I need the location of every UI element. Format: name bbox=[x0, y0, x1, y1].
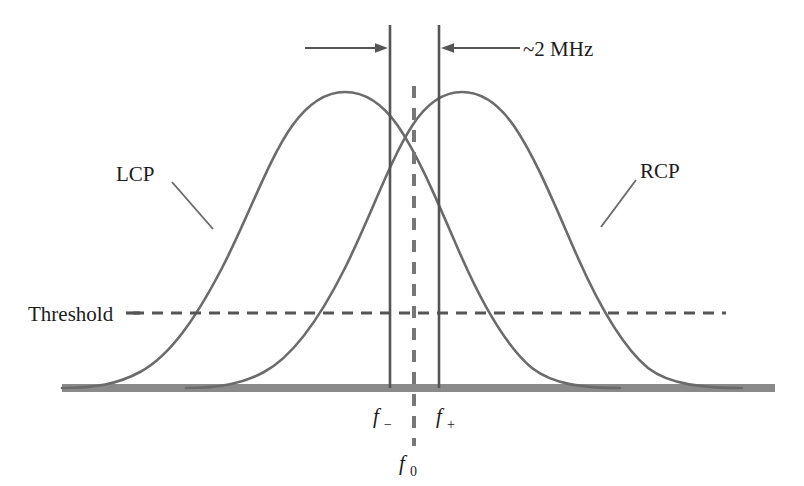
f-minus-label: f − bbox=[373, 404, 392, 432]
baseline-bar bbox=[62, 384, 775, 392]
lcp-label: LCP bbox=[116, 162, 155, 186]
lcp-curve bbox=[62, 92, 620, 388]
f-plus-label: f + bbox=[436, 404, 455, 432]
lcp-leader-line bbox=[172, 182, 213, 229]
f-zero-base: f bbox=[399, 451, 408, 475]
rcp-curve bbox=[186, 92, 742, 388]
f-minus-base: f bbox=[373, 404, 382, 428]
f-minus-subscript: − bbox=[384, 417, 392, 432]
f-zero-subscript: 0 bbox=[410, 464, 417, 479]
span-label: ~2 MHz bbox=[523, 37, 593, 61]
polarization-response-diagram: LCP RCP Threshold ~2 MHz f − f + f 0 bbox=[0, 0, 804, 486]
span-arrow-left bbox=[305, 43, 388, 53]
f-zero-label: f 0 bbox=[399, 451, 417, 479]
rcp-label: RCP bbox=[640, 159, 680, 183]
span-arrow-right bbox=[441, 43, 520, 53]
rcp-leader-line bbox=[601, 180, 636, 227]
f-plus-base: f bbox=[436, 404, 445, 428]
f-plus-subscript: + bbox=[447, 417, 455, 432]
threshold-label: Threshold bbox=[28, 302, 114, 326]
figure-container: LCP RCP Threshold ~2 MHz f − f + f 0 bbox=[0, 0, 804, 486]
